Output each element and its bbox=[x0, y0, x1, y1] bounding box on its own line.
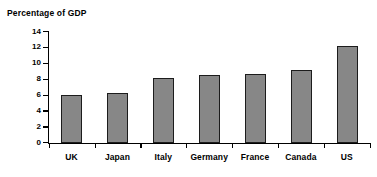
bar-chart: Percentage of GDP 02468101214 UKJapanIta… bbox=[0, 0, 377, 177]
y-tick-label: 4 bbox=[17, 107, 41, 115]
chart-title: Percentage of GDP bbox=[7, 8, 87, 18]
x-tick-mark bbox=[95, 143, 96, 148]
bar-france bbox=[245, 74, 266, 143]
y-tick-label: 14 bbox=[17, 28, 41, 36]
x-tick-mark bbox=[324, 143, 325, 148]
x-tick-mark bbox=[140, 143, 141, 148]
x-tick-label: Italy bbox=[140, 152, 186, 162]
x-tick-label: Canada bbox=[278, 152, 324, 162]
x-tick-mark bbox=[49, 143, 50, 148]
x-tick-label: US bbox=[324, 152, 370, 162]
plot-area bbox=[49, 32, 370, 143]
bar-japan bbox=[107, 93, 128, 143]
y-tick-label: 10 bbox=[17, 59, 41, 67]
x-tick-label: Germany bbox=[186, 152, 232, 162]
y-tick-label: 8 bbox=[17, 75, 41, 83]
bar-us bbox=[337, 46, 358, 144]
x-tick-mark bbox=[232, 143, 233, 148]
y-tick-label: 12 bbox=[17, 43, 41, 51]
x-tick-label: UK bbox=[49, 152, 95, 162]
bar-italy bbox=[153, 78, 174, 143]
x-tick-mark bbox=[278, 143, 279, 148]
y-tick-label: 2 bbox=[17, 123, 41, 131]
y-tick-label: 0 bbox=[17, 139, 41, 147]
y-tick-label: 6 bbox=[17, 91, 41, 99]
bar-uk bbox=[61, 95, 82, 143]
bar-germany bbox=[199, 75, 220, 143]
x-tick-label: France bbox=[232, 152, 278, 162]
bar-canada bbox=[291, 70, 312, 143]
x-tick-mark bbox=[370, 143, 371, 148]
x-tick-mark bbox=[186, 143, 187, 148]
x-tick-label: Japan bbox=[95, 152, 141, 162]
